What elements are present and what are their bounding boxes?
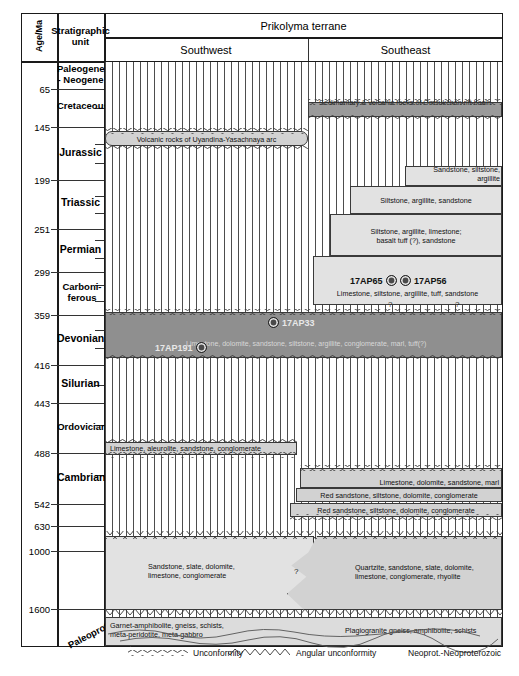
sample-dot-icon — [196, 342, 207, 353]
unit-limestone-dolomite-sandstone-marl-label: Limestone, dolomite, sandstone, marl — [302, 478, 499, 487]
age-tick-416: 416 — [22, 360, 50, 371]
southwest-header: Southwest — [104, 38, 308, 61]
sample-dot-icon — [400, 275, 411, 286]
legend-angular-unconformity: Angular unconformity — [296, 648, 376, 658]
sample-17AP56[interactable]: 17AP56 — [400, 275, 447, 286]
sample-17AP56-label: 17AP56 — [414, 276, 447, 286]
sample-dot-icon — [386, 275, 397, 286]
sample-17AP65[interactable]: 17AP65 — [350, 275, 397, 286]
unit-paleoproterozoic-southwest-label: Garnet-amphibolite, gneiss, schists, met… — [110, 621, 290, 639]
age-tick-1600: 1600 — [17, 604, 50, 615]
period-paleogene-neogene: Paleogene - Neogene — [57, 64, 104, 85]
age-tick-542: 542 — [22, 499, 50, 510]
legend-unconformity: Unconformity — [193, 648, 243, 658]
unit-limestone-siltstone-argillite-tuff-sandstone-label: Limestone, siltstone, argillite, tuff, s… — [315, 289, 500, 298]
unit-red-sandstone-lower-label: Red sandstone, siltstone, dolomite, cong… — [292, 506, 500, 515]
age-tick-630: 630 — [22, 521, 50, 532]
period-devonian: Devonian — [57, 333, 104, 345]
uncertainty-marker-2: ? — [455, 300, 459, 309]
age-tick-1000: 1000 — [17, 546, 50, 557]
sample-17AP191-label: 17AP191 — [155, 343, 193, 353]
southeast-header: Southeast — [308, 38, 503, 61]
unit-riphean-southeast-label: Quartzite, sandstone, slate, dolomite, l… — [355, 563, 505, 581]
stratigraphic-chart: Age/Ma Stratigraphic unit Prikolyma terr… — [0, 0, 519, 676]
unit-siltstone-argillite-sandstone-label: Siltstone, argillite, sandstone — [352, 196, 500, 205]
sample-17AP33[interactable]: 17AP33 — [268, 317, 315, 328]
age-tick-359: 359 — [22, 310, 50, 321]
period-silurian: Silurian — [57, 378, 104, 390]
age-tick-145: 145 — [22, 122, 50, 133]
age-tick-488: 488 — [22, 448, 50, 459]
sample-17AP33-label: 17AP33 — [282, 318, 315, 328]
unit-paleoproterozoic-southeast-label: Plagiogranite gneiss, amphibolite, schis… — [345, 626, 501, 635]
uncertainty-marker-1: ? — [388, 300, 392, 309]
unit-devonian-carbonate-clastic-label: Limestone, dolomite, sandstone, siltston… — [186, 340, 498, 349]
sample-dot-icon — [268, 317, 279, 328]
terrane-header: Prikolyma terrane — [104, 14, 503, 37]
unit-uyandina-yasachnaya-arc-label: Volcanic rocks of Uyandina-Yasachnaya ar… — [107, 135, 306, 144]
unit-riphean-southwest-label: Sandstone, slate, dolomite, limestone, c… — [148, 562, 308, 580]
period-jurassic: Jurassic — [57, 147, 104, 159]
age-tick-199: 199 — [22, 175, 50, 186]
legend-unconformity-label: Unconformity — [193, 648, 243, 658]
legend-angular-unconformity-label: Angular unconformity — [296, 648, 376, 658]
period-triassic: Triassic — [57, 197, 104, 209]
uncertainty-marker-3: ? — [294, 567, 298, 576]
unit-sandstone-siltstone-argillite-label: Sandstone, siltstone, argillite — [405, 165, 500, 183]
unit-red-sandstone-upper-label: Red sandstone, siltstone, dolomite, cong… — [298, 491, 500, 500]
age-tick-65: 65 — [22, 84, 50, 95]
unit-limestone-aleurolite-sandstone-conglomerate-label: Limestone, aleurolite, sandstone, conglo… — [110, 444, 295, 453]
period-carboniferous: Carboni- ferous — [57, 282, 107, 303]
unit-omsukchan-rift-basin-label: Sedimentary & volcanic rocks of Omsukcha… — [309, 98, 501, 107]
age-tick-443: 443 — [22, 398, 50, 409]
legend-neoprot-abbrev-label: Neoprot.-Neoproterozoic — [408, 648, 501, 658]
period-cambrian: Cambrian — [57, 472, 104, 484]
legend-neoprot-abbrev: Neoprot.-Neoproterozoic — [408, 648, 501, 658]
period-cretaceous: Cretaceous — [57, 101, 107, 112]
sample-17AP191[interactable]: 17AP191 — [155, 342, 207, 353]
sample-17AP65-label: 17AP65 — [350, 276, 383, 286]
age-tick-251: 251 — [22, 224, 50, 235]
age-axis-header: Age/Ma — [34, 14, 44, 58]
period-ordovician: Ordovician — [57, 422, 107, 433]
unit-siltstone-argillite-limestone-basalt-tuff-label: Siltstone, argillite, limestone; basalt … — [332, 227, 500, 245]
age-tick-299: 299 — [22, 267, 50, 278]
period-permian: Permian — [57, 244, 104, 256]
strat-unit-header: Stratigraphic unit — [57, 13, 104, 61]
